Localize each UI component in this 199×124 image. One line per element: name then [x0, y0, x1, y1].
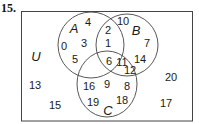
- universe-label: U: [31, 50, 40, 63]
- set-c-label: C: [103, 104, 112, 117]
- region-c-only-value: 19: [87, 97, 99, 108]
- region-b-only-value: 10: [117, 16, 129, 27]
- region-a-only-value: 5: [72, 54, 78, 65]
- region-a-b-value: 1: [105, 38, 111, 49]
- set-a-label: A: [70, 22, 79, 35]
- region-a-only-value: 4: [85, 17, 91, 28]
- outside-value: 13: [29, 80, 41, 91]
- region-b-only-value: 7: [144, 38, 150, 49]
- region-c-only-value: 8: [124, 81, 130, 92]
- region-a-only-value: 3: [81, 38, 87, 49]
- region-a-only-value: 0: [61, 41, 67, 52]
- region-a-b-value: 2: [105, 25, 111, 36]
- set-b-label: B: [132, 24, 141, 37]
- region-b-c-value: 12: [124, 65, 136, 76]
- outside-value: 15: [49, 100, 61, 111]
- region-c-only-value: 16: [83, 81, 95, 92]
- region-c-only-value: 18: [116, 95, 128, 106]
- region-c-only-value: 9: [104, 79, 110, 90]
- region-a-b-c-value: 6: [106, 56, 112, 67]
- outside-value: 20: [165, 72, 177, 83]
- outside-value: 17: [160, 98, 172, 109]
